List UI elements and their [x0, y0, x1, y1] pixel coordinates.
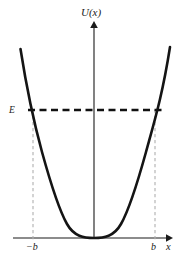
energy-level-label: E: [8, 105, 15, 115]
potential-energy-axis-arrowhead: [90, 21, 98, 28]
x-axis-label: x: [165, 241, 171, 252]
left-turning-point-label: −b: [26, 241, 38, 252]
potential-energy-curve: [21, 47, 171, 238]
y-axis-label: U(x): [81, 6, 101, 19]
potential-energy-figure: U(x) x E −b b: [0, 0, 179, 256]
potential-energy-plot: U(x) x E −b b: [0, 0, 179, 256]
right-turning-point-label: b: [151, 241, 156, 252]
